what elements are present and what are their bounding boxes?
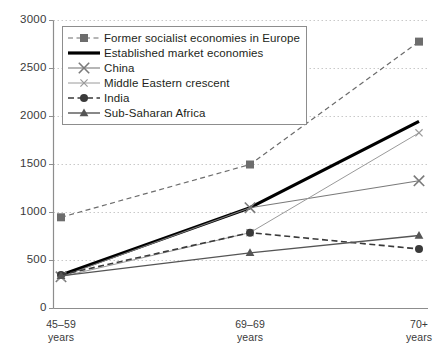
series-line	[57, 231, 424, 279]
y-axis-tick-label: 1500	[20, 157, 46, 169]
legend-label: China	[101, 62, 135, 74]
legend-label: India	[101, 92, 129, 104]
x-axis-tick-label: 70+years	[369, 318, 441, 344]
line-chart: 050010001500200025003000 45–59years69–69…	[0, 0, 441, 362]
legend-symbol	[67, 91, 101, 105]
data-point-marker	[414, 176, 424, 186]
legend-symbol	[67, 46, 101, 60]
x-tick-line1: 69–69	[200, 318, 300, 331]
x-tick-line2: years	[11, 331, 111, 344]
x-axis-tick-label: 69–69years	[200, 318, 300, 344]
legend: Former socialist economies in EuropeEsta…	[62, 26, 307, 125]
data-point-marker	[80, 34, 88, 42]
y-axis-tick-label: 2000	[20, 109, 46, 121]
data-point-marker	[415, 245, 423, 253]
series-path	[61, 181, 419, 277]
legend-label: Middle Eastern crescent	[101, 77, 230, 89]
series-line	[56, 176, 424, 282]
x-tick-line2: years	[369, 331, 441, 344]
legend-label: Established market economies	[101, 47, 263, 59]
y-axis-tick-label: 1000	[20, 205, 46, 217]
data-point-marker	[246, 161, 254, 169]
y-axis-tick-label: 3000	[20, 13, 46, 25]
data-point-marker	[57, 213, 65, 221]
data-point-marker	[80, 94, 88, 102]
series-path	[61, 121, 419, 275]
legend-item: Established market economies	[67, 45, 300, 60]
x-tick-line1: 45–59	[11, 318, 111, 331]
legend-symbol	[67, 61, 101, 75]
legend-item: Middle Eastern crescent	[67, 75, 300, 90]
legend-item: Sub-Saharan Africa	[67, 105, 300, 120]
legend-label: Sub-Saharan Africa	[101, 107, 206, 119]
data-point-marker	[415, 129, 422, 136]
data-point-marker	[246, 229, 254, 237]
legend-symbol	[67, 31, 101, 45]
series-line	[61, 121, 419, 275]
data-point-marker	[415, 38, 423, 46]
legend-item: India	[67, 90, 300, 105]
y-axis-tick-label: 2500	[20, 61, 46, 73]
legend-symbol	[67, 106, 101, 120]
x-axis-tick-label: 45–59years	[11, 318, 111, 344]
legend-item: China	[67, 60, 300, 75]
x-tick-line1: 70+	[369, 318, 441, 331]
legend-label: Former socialist economies in Europe	[101, 32, 300, 44]
legend-symbol	[67, 76, 101, 90]
y-axis-tick-label: 500	[27, 253, 47, 265]
legend-item: Former socialist economies in Europe	[67, 30, 300, 45]
y-axis-tick-label: 0	[40, 301, 47, 313]
x-tick-line2: years	[200, 331, 300, 344]
data-point-marker	[415, 231, 424, 239]
